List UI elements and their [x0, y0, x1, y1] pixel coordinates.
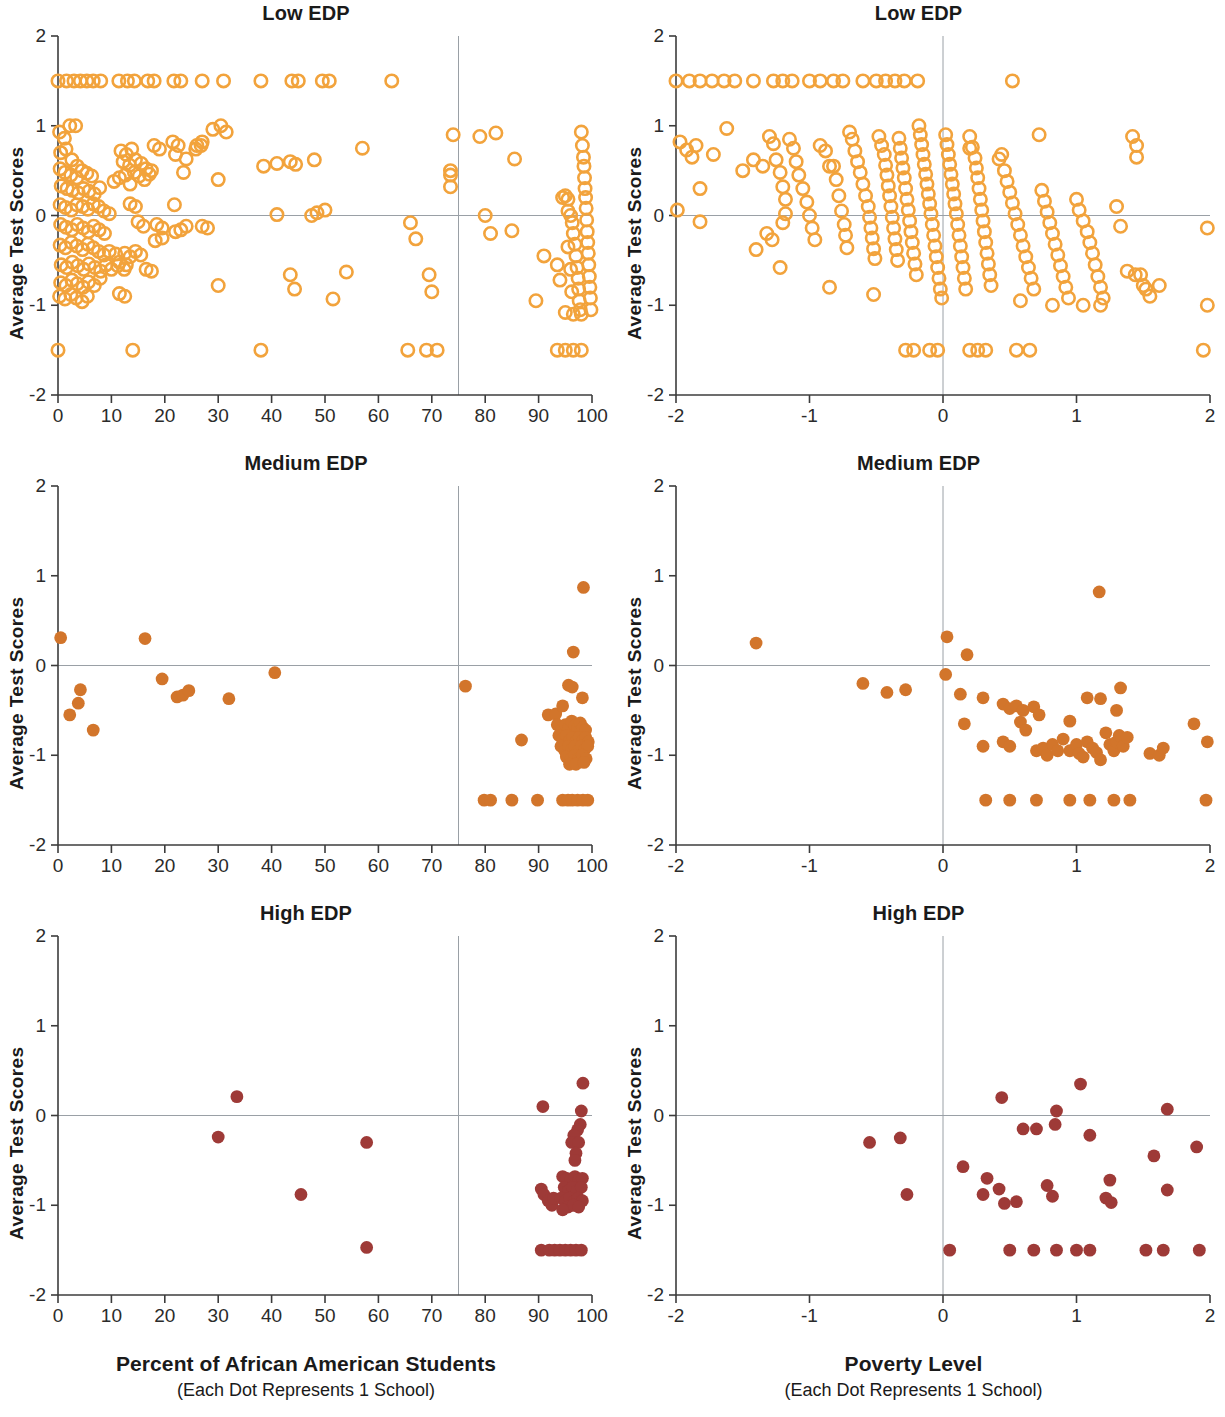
data-point	[790, 155, 802, 167]
x-tick-label: -2	[668, 1305, 685, 1327]
data-point	[1030, 1123, 1043, 1136]
data-point	[841, 242, 853, 254]
y-tick-label: 2	[12, 25, 46, 47]
data-point	[1027, 1244, 1040, 1257]
data-point	[569, 1154, 582, 1167]
data-point	[1200, 794, 1213, 807]
data-point	[1057, 733, 1070, 746]
data-point	[288, 283, 300, 295]
data-point	[801, 196, 813, 208]
data-point	[177, 166, 189, 178]
data-point	[737, 164, 749, 176]
data-point	[566, 681, 579, 694]
data-point	[1193, 1244, 1206, 1257]
data-point	[554, 274, 566, 286]
x-tick-label: 2	[1205, 405, 1216, 427]
data-point	[255, 75, 267, 87]
data-point	[857, 178, 869, 190]
data-point	[1003, 1244, 1016, 1257]
data-point	[750, 637, 763, 650]
x-tick-label: -2	[668, 405, 685, 427]
x-tick-label: 40	[261, 405, 282, 427]
data-point	[577, 581, 590, 594]
x-axis-caption-right-main: Poverty Level	[612, 1352, 1215, 1376]
y-tick-label: 2	[12, 925, 46, 947]
data-point	[979, 794, 992, 807]
x-tick-label: 80	[475, 855, 496, 877]
data-point	[572, 1136, 585, 1149]
x-tick-label: 0	[53, 855, 64, 877]
data-point	[993, 1183, 1006, 1196]
data-point	[977, 691, 990, 704]
x-tick-label: 100	[576, 1305, 608, 1327]
x-tick-label: 30	[208, 1305, 229, 1327]
y-tick-label: 0	[12, 205, 46, 227]
data-point	[1089, 259, 1101, 271]
data-point	[1110, 200, 1122, 212]
data-point	[774, 166, 786, 178]
data-point	[506, 794, 519, 807]
data-point	[459, 680, 472, 693]
panel-title-high-left: High EDP	[0, 902, 612, 925]
data-point	[911, 75, 923, 87]
x-tick-label: 60	[368, 1305, 389, 1327]
data-point	[1033, 129, 1045, 141]
data-point	[757, 160, 769, 172]
data-point	[747, 75, 759, 87]
data-point	[1148, 1149, 1161, 1162]
panel-medium-left: Medium EDP Average Test Scores 210-1-201…	[0, 450, 612, 900]
data-point	[54, 631, 67, 644]
data-point	[402, 344, 414, 356]
x-tick-label: 20	[154, 855, 175, 877]
data-point	[515, 734, 528, 747]
x-tick-label: 2	[1205, 855, 1216, 877]
x-tick-label: 60	[368, 855, 389, 877]
x-tick-label: 90	[528, 855, 549, 877]
data-point	[87, 724, 100, 737]
y-tick-label: 0	[12, 655, 46, 677]
data-point	[857, 75, 869, 87]
data-point	[707, 148, 719, 160]
data-point	[168, 199, 180, 211]
x-tick-label: 100	[576, 855, 608, 877]
data-point	[1050, 1244, 1063, 1257]
data-point	[1103, 1174, 1116, 1187]
data-point	[1161, 1184, 1174, 1197]
data-point	[531, 794, 544, 807]
data-point	[777, 181, 789, 193]
data-point	[779, 193, 791, 205]
data-point	[694, 216, 706, 228]
x-axis-caption-left-main: Percent of African American Students	[0, 1352, 612, 1376]
data-point	[1197, 344, 1209, 356]
data-point	[770, 154, 782, 166]
x-tick-label: 20	[154, 1305, 175, 1327]
data-point	[217, 75, 229, 87]
data-point	[1063, 715, 1076, 728]
x-tick-label: 0	[938, 405, 949, 427]
data-point-group	[863, 1078, 1206, 1257]
panel-title-medium-left: Medium EDP	[0, 452, 612, 475]
data-point	[1201, 222, 1213, 234]
data-point	[1003, 794, 1016, 807]
scatter-canvas	[676, 936, 1212, 1297]
data-point	[793, 169, 805, 181]
data-point	[1201, 735, 1214, 748]
x-tick-label: 90	[528, 1305, 549, 1327]
data-point	[308, 154, 320, 166]
data-point	[1190, 1141, 1203, 1154]
data-point	[806, 222, 818, 234]
panel-high-right: High EDP Average Test Scores 210-1-2-2-1…	[612, 900, 1225, 1350]
data-point	[551, 259, 563, 271]
data-point	[830, 173, 842, 185]
data-point	[943, 1244, 956, 1257]
data-point	[484, 794, 497, 807]
data-point	[901, 1188, 914, 1201]
panel-title-low-left: Low EDP	[0, 2, 612, 25]
x-tick-label: 0	[938, 1305, 949, 1327]
figure-grid: Low EDP Average Test Scores 210-1-201020…	[0, 0, 1225, 1417]
data-point	[268, 666, 281, 679]
data-point	[156, 673, 169, 686]
x-tick-label: 70	[421, 1305, 442, 1327]
data-point	[1157, 742, 1170, 755]
data-point	[671, 204, 683, 216]
